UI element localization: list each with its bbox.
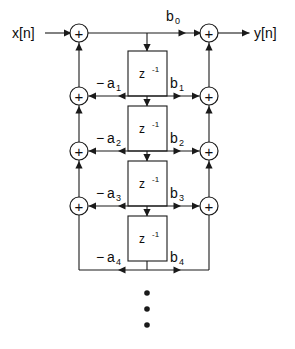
a1-sub: 1 bbox=[116, 83, 121, 93]
label-a4: − a 4 bbox=[96, 249, 121, 267]
b3-base: b bbox=[170, 185, 178, 201]
b4-sub: 4 bbox=[179, 257, 184, 267]
summer-plus-symbol: + bbox=[75, 25, 84, 42]
summer-plus-symbol: + bbox=[75, 88, 84, 105]
summer-left-2: + bbox=[70, 142, 88, 160]
a2-base: a bbox=[107, 130, 115, 146]
ellipsis-dot bbox=[144, 306, 150, 312]
b1-base: b bbox=[170, 75, 178, 91]
a3-minus: − bbox=[96, 185, 104, 201]
b0-base: b bbox=[166, 8, 174, 24]
a3-sub: 3 bbox=[116, 193, 121, 203]
b2-sub: 2 bbox=[179, 138, 184, 148]
flowgraph-canvas: + + + + + + + + bbox=[0, 0, 295, 349]
output-label: y[n] bbox=[254, 25, 277, 41]
delay-base-label: z bbox=[139, 232, 145, 246]
summer-left-0: + bbox=[70, 24, 88, 42]
summer-plus-symbol: + bbox=[205, 88, 214, 105]
b1-sub: 1 bbox=[179, 83, 184, 93]
input-wire-group bbox=[45, 29, 72, 36]
summer-right-0: + bbox=[200, 24, 218, 42]
label-b1: b 1 bbox=[170, 75, 184, 93]
label-b3: b 3 bbox=[170, 185, 184, 203]
summer-right-1: + bbox=[200, 87, 218, 105]
b0-sub: 0 bbox=[175, 16, 180, 26]
a4-base: a bbox=[107, 249, 115, 265]
label-a1: − a 1 bbox=[96, 75, 121, 93]
signal-flow-diagram: + + + + + + + + bbox=[0, 0, 295, 349]
feedforward-rail-b0 bbox=[88, 29, 202, 36]
delay-base-label: z bbox=[139, 177, 145, 191]
label-a3: − a 3 bbox=[96, 185, 121, 203]
a3-base: a bbox=[107, 185, 115, 201]
a1-base: a bbox=[107, 75, 115, 91]
input-label: x[n] bbox=[12, 25, 35, 41]
ellipsis-dot bbox=[144, 290, 150, 296]
summer-left-1: + bbox=[70, 87, 88, 105]
ellipsis-dot bbox=[144, 322, 150, 328]
a4-sub: 4 bbox=[116, 257, 121, 267]
a1-minus: − bbox=[96, 75, 104, 91]
label-b0: b 0 bbox=[166, 8, 180, 26]
label-b2: b 2 bbox=[170, 130, 184, 148]
delay-exponent-label: -1 bbox=[152, 120, 160, 129]
a2-minus: − bbox=[96, 130, 104, 146]
summer-left-3: + bbox=[70, 197, 88, 215]
delay-exponent-label: -1 bbox=[152, 65, 160, 74]
delay-block-4: z -1 bbox=[128, 216, 167, 261]
b4-base: b bbox=[170, 249, 178, 265]
label-b4: b 4 bbox=[170, 249, 184, 267]
a4-minus: − bbox=[96, 249, 104, 265]
a2-sub: 2 bbox=[116, 138, 121, 148]
summer-plus-symbol: + bbox=[205, 25, 214, 42]
b2-base: b bbox=[170, 130, 178, 146]
delay-exponent-label: -1 bbox=[152, 175, 160, 184]
tap-row-4 bbox=[79, 266, 209, 273]
summer-plus-symbol: + bbox=[205, 198, 214, 215]
label-a2: − a 2 bbox=[96, 130, 121, 148]
delay-base-label: z bbox=[139, 67, 145, 81]
summer-plus-symbol: + bbox=[75, 198, 84, 215]
delay-block-3: z -1 bbox=[128, 161, 167, 206]
delay-block-2: z -1 bbox=[128, 106, 167, 151]
output-wire-group bbox=[218, 29, 250, 36]
summer-plus-symbol: + bbox=[75, 143, 84, 160]
summer-right-3: + bbox=[200, 197, 218, 215]
delay-exponent-label: -1 bbox=[152, 230, 160, 239]
vertical-ellipsis bbox=[144, 290, 150, 328]
delay-block-1: z -1 bbox=[128, 51, 167, 96]
delay-base-label: z bbox=[139, 122, 145, 136]
b3-sub: 3 bbox=[179, 193, 184, 203]
summer-plus-symbol: + bbox=[205, 143, 214, 160]
summer-right-2: + bbox=[200, 142, 218, 160]
